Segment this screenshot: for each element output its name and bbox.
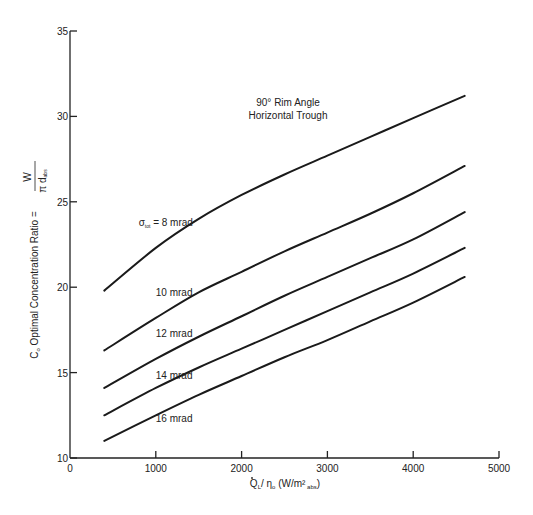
y-tick-label: 30 — [57, 111, 69, 122]
curve-12-mrad — [104, 212, 464, 388]
curve-label: 16 mrad — [156, 413, 193, 424]
x-tick-label: 5000 — [488, 463, 511, 474]
x-tick-label: 4000 — [402, 463, 425, 474]
axis-ticks: 101520253035010002000300040005000 — [57, 26, 511, 474]
y-frac-numerator: W — [22, 172, 33, 182]
axes — [70, 31, 499, 458]
curve-label: 14 mrad — [156, 370, 193, 381]
curve-label: 12 mrad — [156, 328, 193, 339]
data-curves — [104, 96, 464, 441]
annotation-title: 90° Rim Angle Horizontal Trough — [249, 97, 328, 121]
y-tick-label: 35 — [57, 26, 69, 37]
svg-text:π dabs: π dabs — [37, 169, 48, 193]
curve-label: σtot = 8 mrad — [139, 217, 193, 229]
svg-text:Co Optimal Concentration Ratio: Co Optimal Concentration Ratio = — [29, 211, 41, 359]
y-tick-label: 15 — [57, 368, 69, 379]
x-tick-label: 0 — [67, 463, 73, 474]
annotation-line-1: 90° Rim Angle — [256, 97, 320, 108]
y-tick-label: 25 — [57, 197, 69, 208]
curve-10-mrad — [104, 166, 464, 350]
y-tick-label: 20 — [57, 282, 69, 293]
curve-8-mrad — [104, 96, 464, 291]
x-tick-label: 3000 — [316, 463, 339, 474]
concentration-ratio-chart: 101520253035010002000300040005000 σtot =… — [0, 0, 533, 515]
curve-label: 10 mrad — [156, 287, 193, 298]
annotation-line-2: Horizontal Trough — [249, 110, 328, 121]
x-tick-label: 2000 — [230, 463, 253, 474]
svg-text:QL/ ηo (W/m² abs): QL/ ηo (W/m² abs) — [250, 478, 320, 490]
dot-over-q — [251, 477, 253, 479]
x-tick-label: 1000 — [145, 463, 168, 474]
y-axis-label: Co Optimal Concentration Ratio = W π dab… — [22, 161, 48, 359]
x-axis-label: QL/ ηo (W/m² abs) — [250, 477, 320, 490]
